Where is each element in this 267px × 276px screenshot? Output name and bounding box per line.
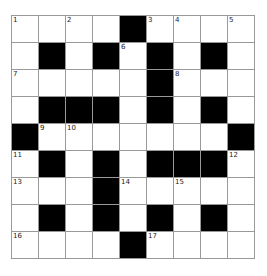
crossword-cell[interactable]: 12 <box>228 151 255 178</box>
crossword-cell[interactable] <box>228 232 255 259</box>
clue-number: 15 <box>175 178 184 187</box>
clue-number: 14 <box>121 178 130 187</box>
crossword-cell[interactable] <box>66 178 93 205</box>
black-square <box>39 151 66 178</box>
crossword-cell[interactable] <box>120 124 147 151</box>
crossword-cell[interactable] <box>93 16 120 43</box>
crossword-cell[interactable]: 11 <box>12 151 39 178</box>
black-square <box>147 97 174 124</box>
crossword-cell[interactable]: 4 <box>174 16 201 43</box>
crossword-cell[interactable] <box>228 43 255 70</box>
black-square <box>93 151 120 178</box>
clue-number: 9 <box>40 124 44 133</box>
crossword-cell[interactable] <box>201 124 228 151</box>
black-square <box>147 151 174 178</box>
clue-number: 6 <box>121 43 125 52</box>
black-square <box>228 124 255 151</box>
crossword-cell[interactable] <box>174 232 201 259</box>
crossword-cell[interactable]: 7 <box>12 70 39 97</box>
black-square <box>93 43 120 70</box>
black-square <box>120 16 147 43</box>
black-square <box>93 97 120 124</box>
clue-number: 1 <box>13 16 17 25</box>
crossword-cell[interactable] <box>147 178 174 205</box>
crossword-cell[interactable] <box>174 97 201 124</box>
clue-number: 16 <box>13 232 22 241</box>
clue-number: 3 <box>148 16 152 25</box>
clue-number: 2 <box>67 16 71 25</box>
black-square <box>12 124 39 151</box>
black-square <box>93 205 120 232</box>
crossword-cell[interactable]: 5 <box>228 16 255 43</box>
crossword-cell[interactable] <box>66 70 93 97</box>
crossword-cell[interactable] <box>228 70 255 97</box>
crossword-cell[interactable] <box>174 43 201 70</box>
crossword-cell[interactable] <box>174 124 201 151</box>
crossword-cell[interactable] <box>174 205 201 232</box>
black-square <box>120 232 147 259</box>
black-square <box>201 43 228 70</box>
crossword-cell[interactable] <box>66 151 93 178</box>
crossword-cell[interactable] <box>39 232 66 259</box>
crossword-cell[interactable] <box>39 16 66 43</box>
crossword-cell[interactable]: 9 <box>39 124 66 151</box>
crossword-cell[interactable] <box>120 97 147 124</box>
crossword-cell[interactable]: 10 <box>66 124 93 151</box>
crossword-cell[interactable] <box>228 178 255 205</box>
crossword-cell[interactable] <box>120 151 147 178</box>
crossword-cell[interactable] <box>66 205 93 232</box>
black-square <box>147 70 174 97</box>
black-square <box>39 43 66 70</box>
crossword-cell[interactable]: 1 <box>12 16 39 43</box>
crossword-cell[interactable]: 2 <box>66 16 93 43</box>
crossword-cell[interactable] <box>201 178 228 205</box>
crossword-cell[interactable] <box>147 124 174 151</box>
crossword-cell[interactable] <box>201 16 228 43</box>
clue-number: 12 <box>229 151 238 160</box>
clue-number: 10 <box>67 124 76 133</box>
crossword-cell[interactable] <box>12 43 39 70</box>
crossword-cell[interactable]: 3 <box>147 16 174 43</box>
clue-number: 17 <box>148 232 157 241</box>
black-square <box>39 205 66 232</box>
crossword-cell[interactable] <box>201 232 228 259</box>
crossword-cell[interactable] <box>228 97 255 124</box>
black-square <box>201 151 228 178</box>
crossword-cell[interactable] <box>228 205 255 232</box>
crossword-cell[interactable] <box>12 205 39 232</box>
crossword-cell[interactable]: 8 <box>174 70 201 97</box>
crossword-cell[interactable]: 15 <box>174 178 201 205</box>
black-square <box>147 43 174 70</box>
crossword-cell[interactable] <box>12 97 39 124</box>
clue-number: 7 <box>13 70 17 79</box>
clue-number: 8 <box>175 70 179 79</box>
crossword-cell[interactable] <box>66 43 93 70</box>
crossword-cell[interactable] <box>93 70 120 97</box>
crossword-cell[interactable]: 13 <box>12 178 39 205</box>
crossword-cell[interactable] <box>93 124 120 151</box>
crossword-cell[interactable] <box>39 70 66 97</box>
black-square <box>201 205 228 232</box>
crossword-cell[interactable]: 16 <box>12 232 39 259</box>
crossword-cell[interactable]: 6 <box>120 43 147 70</box>
clue-number: 5 <box>229 16 233 25</box>
black-square <box>66 97 93 124</box>
crossword-cell[interactable]: 17 <box>147 232 174 259</box>
clue-number: 13 <box>13 178 22 187</box>
crossword-cell[interactable] <box>120 70 147 97</box>
black-square <box>39 97 66 124</box>
clue-number: 11 <box>13 151 22 160</box>
crossword-grid: 1234567891011121314151617 <box>11 15 255 259</box>
black-square <box>93 178 120 205</box>
crossword-cell[interactable] <box>201 70 228 97</box>
crossword-cell[interactable] <box>66 232 93 259</box>
crossword-cell[interactable]: 14 <box>120 178 147 205</box>
crossword-cell[interactable] <box>93 232 120 259</box>
crossword-cell[interactable] <box>39 178 66 205</box>
clue-number: 4 <box>175 16 179 25</box>
black-square <box>147 205 174 232</box>
crossword-cell[interactable] <box>120 205 147 232</box>
black-square <box>174 151 201 178</box>
black-square <box>201 97 228 124</box>
